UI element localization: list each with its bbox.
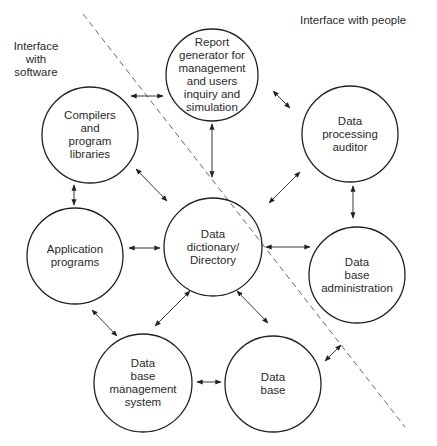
- arrow-compilers-dictionary: [136, 169, 167, 201]
- arrow-report-auditor: [273, 91, 290, 108]
- data-base-label: Data base: [225, 336, 321, 432]
- arrow-database-dba: [325, 345, 341, 361]
- arrow-auditor-dictionary: [269, 172, 300, 203]
- data-dictionary-label: Data dictionary/ Directory: [164, 198, 262, 296]
- people-interface-label: Interface with people: [300, 14, 436, 27]
- arrow-dictionary-dbms: [155, 291, 190, 326]
- dbms-label: Data base management system: [94, 334, 192, 432]
- software-interface-label: Interface with software: [8, 40, 64, 79]
- compilers-label: Compilers and program libraries: [42, 87, 138, 183]
- application-programs-label: Application programs: [27, 208, 123, 304]
- report-generator-label: Report generator for management and user…: [166, 29, 258, 121]
- data-processing-auditor-label: Data processing auditor: [302, 86, 398, 182]
- data-base-administration-label: Data base administration: [309, 227, 405, 323]
- arrow-application-dbms: [92, 310, 117, 336]
